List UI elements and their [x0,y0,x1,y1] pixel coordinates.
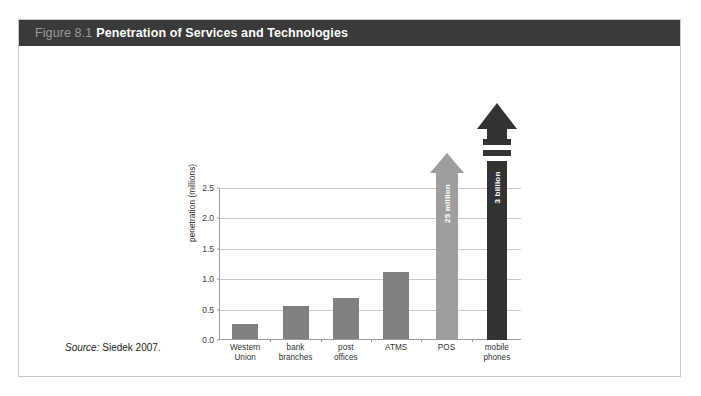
y-tick-label: 0.5 [202,305,214,315]
x-tick-mark [321,339,322,342]
figure-title-bar: Figure 8.1Penetration of Services and Te… [19,20,680,46]
source-label: Source: [65,342,99,353]
x-tick-mark [472,339,473,342]
page-title: Penetration of Services and Technologies [96,26,348,40]
source-note: Source: Siedek 2007. [65,342,161,353]
x-category-label: post offices [334,343,358,362]
y-tick-label: 2.5 [202,183,214,193]
y-axis-label: penetration (millions) [188,164,197,242]
y-tick-label: 2.0 [202,213,214,223]
y-tick-mark [217,309,220,310]
arrow-shaft-upper [487,129,507,139]
arrow-mobile-phones: 3 billion [477,103,517,340]
figure-title-text: Figure 8.1Penetration of Services and Te… [19,26,348,40]
x-category-label: bank branches [279,343,313,362]
bar-western-union [232,324,258,339]
arrow-pos: 25 million [430,153,464,340]
bar-post-offices [333,298,359,339]
figure-number: Figure 8.1 [35,26,92,40]
y-tick-mark [217,279,220,280]
arrow-head-icon [430,153,464,173]
x-category-label: Western Union [230,343,260,362]
x-tick-mark [371,339,372,342]
x-tick-mark [421,339,422,342]
y-tick-mark [217,218,220,219]
y-tick-label: 1.5 [202,244,214,254]
arrow-shaft: 3 billion [487,161,507,340]
arrow-shaft: 25 million [436,173,458,340]
arrow-value-label: 25 million [442,184,451,223]
arrow-head-icon [477,103,517,129]
bar-atms [383,272,409,339]
source-value: Siedek 2007. [99,342,160,353]
x-category-label: POS [438,343,455,353]
y-tick-mark [217,340,220,341]
y-tick-label: 0.0 [202,335,214,345]
figure-card: Figure 8.1Penetration of Services and Te… [18,19,681,377]
x-tick-mark [270,339,271,342]
x-category-label: ATMS [385,343,407,353]
x-category-label: mobile phones [483,343,510,362]
plot-area: 0.00.51.01.52.02.5Western Unionbank bran… [219,188,521,340]
y-tick-mark [217,248,220,249]
bar-bank-branches [283,306,309,339]
y-tick-label: 1.0 [202,274,214,284]
chart-area: penetration (millions) 0.00.51.01.52.02.… [19,46,682,378]
y-tick-mark [217,188,220,189]
arrow-value-label: 3 billion [492,171,501,203]
